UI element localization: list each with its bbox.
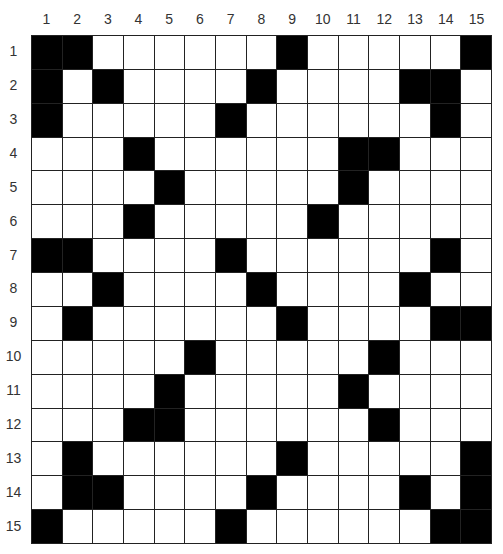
white-cell[interactable] bbox=[400, 36, 430, 69]
white-cell[interactable] bbox=[32, 307, 62, 340]
white-cell[interactable] bbox=[247, 341, 277, 374]
white-cell[interactable] bbox=[63, 171, 93, 204]
white-cell[interactable] bbox=[185, 442, 215, 475]
white-cell[interactable] bbox=[369, 171, 399, 204]
white-cell[interactable] bbox=[63, 205, 93, 238]
white-cell[interactable] bbox=[185, 70, 215, 103]
white-cell[interactable] bbox=[216, 205, 246, 238]
white-cell[interactable] bbox=[32, 341, 62, 374]
white-cell[interactable] bbox=[216, 409, 246, 442]
white-cell[interactable] bbox=[247, 104, 277, 137]
white-cell[interactable] bbox=[124, 307, 154, 340]
white-cell[interactable] bbox=[369, 307, 399, 340]
white-cell[interactable] bbox=[461, 239, 491, 272]
white-cell[interactable] bbox=[308, 409, 338, 442]
white-cell[interactable] bbox=[400, 375, 430, 408]
white-cell[interactable] bbox=[369, 375, 399, 408]
white-cell[interactable] bbox=[63, 70, 93, 103]
white-cell[interactable] bbox=[277, 70, 307, 103]
white-cell[interactable] bbox=[339, 510, 369, 543]
white-cell[interactable] bbox=[93, 36, 123, 69]
white-cell[interactable] bbox=[308, 36, 338, 69]
white-cell[interactable] bbox=[247, 307, 277, 340]
white-cell[interactable] bbox=[339, 36, 369, 69]
white-cell[interactable] bbox=[339, 70, 369, 103]
white-cell[interactable] bbox=[124, 510, 154, 543]
white-cell[interactable] bbox=[93, 104, 123, 137]
white-cell[interactable] bbox=[185, 104, 215, 137]
white-cell[interactable] bbox=[277, 273, 307, 306]
white-cell[interactable] bbox=[369, 510, 399, 543]
white-cell[interactable] bbox=[369, 205, 399, 238]
white-cell[interactable] bbox=[369, 273, 399, 306]
white-cell[interactable] bbox=[63, 341, 93, 374]
white-cell[interactable] bbox=[247, 442, 277, 475]
white-cell[interactable] bbox=[32, 375, 62, 408]
white-cell[interactable] bbox=[155, 341, 185, 374]
white-cell[interactable] bbox=[32, 442, 62, 475]
white-cell[interactable] bbox=[124, 36, 154, 69]
white-cell[interactable] bbox=[124, 375, 154, 408]
white-cell[interactable] bbox=[155, 104, 185, 137]
white-cell[interactable] bbox=[124, 171, 154, 204]
white-cell[interactable] bbox=[185, 273, 215, 306]
white-cell[interactable] bbox=[308, 307, 338, 340]
white-cell[interactable] bbox=[339, 239, 369, 272]
white-cell[interactable] bbox=[155, 138, 185, 171]
white-cell[interactable] bbox=[461, 138, 491, 171]
white-cell[interactable] bbox=[185, 36, 215, 69]
white-cell[interactable] bbox=[369, 36, 399, 69]
white-cell[interactable] bbox=[308, 442, 338, 475]
white-cell[interactable] bbox=[216, 70, 246, 103]
white-cell[interactable] bbox=[93, 442, 123, 475]
white-cell[interactable] bbox=[216, 341, 246, 374]
white-cell[interactable] bbox=[400, 307, 430, 340]
white-cell[interactable] bbox=[277, 239, 307, 272]
white-cell[interactable] bbox=[185, 409, 215, 442]
white-cell[interactable] bbox=[63, 138, 93, 171]
white-cell[interactable] bbox=[216, 273, 246, 306]
white-cell[interactable] bbox=[308, 273, 338, 306]
white-cell[interactable] bbox=[400, 138, 430, 171]
white-cell[interactable] bbox=[63, 273, 93, 306]
white-cell[interactable] bbox=[277, 104, 307, 137]
white-cell[interactable] bbox=[461, 375, 491, 408]
white-cell[interactable] bbox=[339, 104, 369, 137]
white-cell[interactable] bbox=[369, 239, 399, 272]
white-cell[interactable] bbox=[308, 171, 338, 204]
white-cell[interactable] bbox=[185, 510, 215, 543]
white-cell[interactable] bbox=[124, 341, 154, 374]
white-cell[interactable] bbox=[400, 341, 430, 374]
white-cell[interactable] bbox=[308, 70, 338, 103]
white-cell[interactable] bbox=[216, 442, 246, 475]
white-cell[interactable] bbox=[339, 205, 369, 238]
white-cell[interactable] bbox=[93, 171, 123, 204]
white-cell[interactable] bbox=[400, 409, 430, 442]
white-cell[interactable] bbox=[247, 205, 277, 238]
white-cell[interactable] bbox=[155, 510, 185, 543]
white-cell[interactable] bbox=[431, 375, 461, 408]
white-cell[interactable] bbox=[369, 70, 399, 103]
white-cell[interactable] bbox=[308, 104, 338, 137]
white-cell[interactable] bbox=[339, 307, 369, 340]
white-cell[interactable] bbox=[155, 36, 185, 69]
white-cell[interactable] bbox=[431, 138, 461, 171]
white-cell[interactable] bbox=[63, 375, 93, 408]
white-cell[interactable] bbox=[124, 476, 154, 509]
white-cell[interactable] bbox=[93, 341, 123, 374]
white-cell[interactable] bbox=[400, 171, 430, 204]
white-cell[interactable] bbox=[155, 239, 185, 272]
white-cell[interactable] bbox=[431, 442, 461, 475]
white-cell[interactable] bbox=[63, 510, 93, 543]
white-cell[interactable] bbox=[461, 205, 491, 238]
white-cell[interactable] bbox=[32, 205, 62, 238]
white-cell[interactable] bbox=[431, 409, 461, 442]
white-cell[interactable] bbox=[216, 138, 246, 171]
white-cell[interactable] bbox=[247, 510, 277, 543]
white-cell[interactable] bbox=[431, 476, 461, 509]
white-cell[interactable] bbox=[308, 510, 338, 543]
white-cell[interactable] bbox=[32, 409, 62, 442]
white-cell[interactable] bbox=[155, 476, 185, 509]
white-cell[interactable] bbox=[431, 205, 461, 238]
white-cell[interactable] bbox=[63, 104, 93, 137]
